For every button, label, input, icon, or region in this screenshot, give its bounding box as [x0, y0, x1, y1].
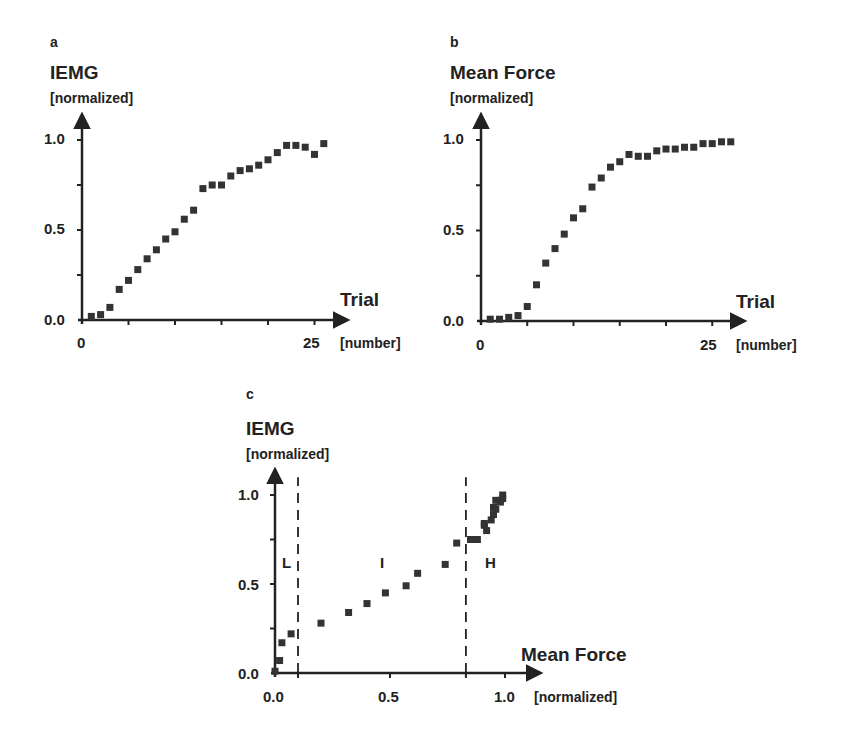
panel-b-points	[487, 138, 735, 322]
panel-a-points	[88, 140, 327, 320]
plot-canvas	[0, 0, 858, 740]
panel-c-points	[272, 492, 507, 675]
